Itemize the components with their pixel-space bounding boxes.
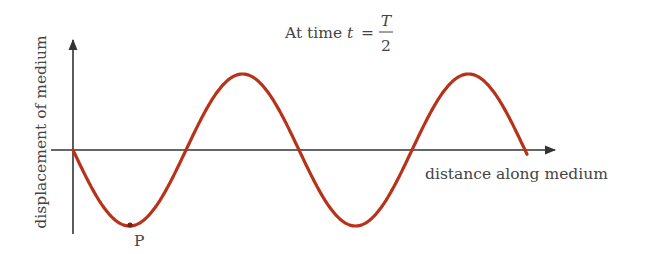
point-p-marker	[127, 222, 132, 227]
title-numerator: T	[381, 12, 393, 30]
y-axis-label: displacement of medium	[32, 35, 50, 229]
title-equals: =	[361, 24, 374, 42]
title-variable: t	[347, 24, 354, 42]
x-axis-label: distance along medium	[425, 165, 608, 183]
wave-diagram: P displacement of medium distance along …	[0, 0, 648, 254]
title-prefix: At time	[284, 24, 342, 42]
title-denominator: 2	[381, 37, 391, 55]
diagram-title: At time t = T 2	[284, 12, 393, 55]
point-p-label: P	[134, 232, 144, 250]
